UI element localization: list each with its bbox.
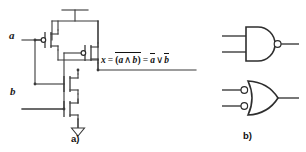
input-a-wire — [22, 39, 42, 86]
input-b-wire — [22, 53, 65, 110]
pmos-b-gate-bubble — [81, 51, 86, 56]
nmos-a-transistor — [35, 69, 79, 103]
panel-a-circuit — [22, 10, 196, 136]
equation-equals-1: = — [106, 55, 115, 65]
input-a-label: a — [9, 30, 15, 41]
nand-output-bubble — [274, 41, 281, 48]
nmos-b-transistor — [22, 99, 78, 128]
or-input-bubble-bottom — [241, 103, 248, 110]
or-input-bubble-top — [241, 87, 248, 94]
or-gate-inverted-inputs-symbol — [222, 81, 299, 115]
equation-not-b: b — [164, 53, 169, 65]
input-b-label: b — [10, 86, 16, 97]
figure-root: a b x=(a∧b)=a∨b a) b) — [0, 0, 306, 152]
equation-negated-term: (a∧b) — [115, 52, 140, 65]
equation-equals-2: = — [141, 55, 150, 65]
panel-b-caption: b) — [243, 131, 252, 141]
nand-gate-symbol — [222, 27, 299, 61]
equation-and-operator: ∧ — [123, 55, 132, 65]
pmos-b-transistor — [64, 21, 98, 70]
circuit-schematic — [0, 0, 306, 152]
vdd-rail — [62, 10, 88, 21]
panel-a-caption: a) — [71, 134, 79, 144]
output-equation: x=(a∧b)=a∨b — [101, 52, 169, 65]
equation-or-operator: ∨ — [155, 55, 164, 65]
panel-b-symbols — [222, 27, 299, 115]
